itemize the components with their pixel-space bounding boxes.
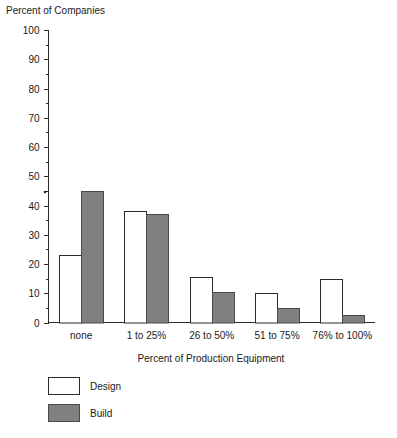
y-tick-label: 10 (28, 288, 40, 299)
bar-build-3 (278, 309, 300, 324)
y-tick-label: 40 (28, 201, 40, 212)
legend-swatch-build (49, 405, 80, 422)
bar-design-2 (191, 278, 213, 324)
bar-build-0 (82, 192, 104, 324)
y-tick-label: 70 (28, 113, 40, 124)
bar-chart-figure: Percent of Companies 0102030405060708090… (0, 0, 397, 438)
x-axis-category-label: 26 to 50% (189, 330, 234, 341)
legend-swatch-design (49, 378, 80, 395)
y-tick-label: 90 (28, 54, 40, 65)
legend-label-design: Design (90, 381, 121, 392)
x-axis-title: Percent of Production Equipment (138, 353, 285, 364)
y-tick-label: 60 (28, 142, 40, 153)
x-axis-category-label: 1 to 25% (127, 330, 167, 341)
y-tick-label: 100 (23, 25, 40, 36)
bar-build-1 (147, 215, 169, 324)
bars-layer (60, 192, 365, 324)
y-tick-label: 20 (28, 259, 40, 270)
chart-title: Percent of Companies (6, 5, 105, 16)
y-axis-ticks (44, 31, 49, 324)
x-axis-category-label: 76% to 100% (313, 330, 373, 341)
scan-artifact-dot (44, 191, 47, 194)
y-tick-label: 80 (28, 84, 40, 95)
x-axis-category-label: none (70, 330, 93, 341)
y-tick-label: 0 (34, 318, 40, 329)
chart-svg: Percent of Companies 0102030405060708090… (0, 0, 397, 438)
bar-design-0 (60, 256, 82, 324)
legend-label-build: Build (90, 408, 112, 419)
bar-build-2 (213, 293, 235, 324)
x-axis-category-label: 51 to 75% (255, 330, 300, 341)
bar-design-4 (321, 280, 343, 324)
y-tick-label: 30 (28, 230, 40, 241)
y-tick-label: 50 (28, 171, 40, 182)
category-labels: none1 to 25%26 to 50%51 to 75%76% to 100… (70, 330, 372, 341)
bar-design-3 (256, 294, 278, 324)
y-axis-tick-labels: 0102030405060708090100 (23, 25, 40, 329)
bar-build-4 (343, 316, 365, 324)
bar-design-1 (125, 212, 147, 324)
